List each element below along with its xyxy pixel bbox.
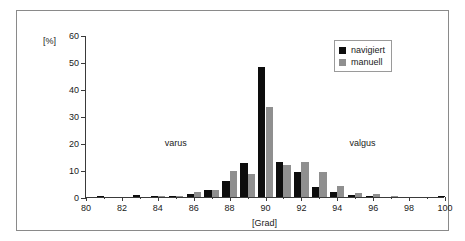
bar-navigiert-94: [330, 192, 337, 197]
x-tick-100: [445, 197, 446, 201]
legend-label-navigiert: navigiert: [351, 45, 385, 55]
bar-manuell-85: [176, 196, 183, 197]
bar-manuell-89: [248, 174, 255, 197]
x-tick-label-88: 88: [225, 203, 235, 213]
annotation-varus: varus: [165, 138, 187, 148]
y-axis-title: [%]: [43, 36, 56, 46]
bar-navigiert-87: [204, 190, 211, 197]
y-tick-50: [81, 63, 86, 64]
bar-navigiert-85: [169, 196, 176, 197]
x-tick-97: [391, 197, 392, 199]
y-tick-30: [81, 117, 86, 118]
x-tick-label-100: 100: [437, 203, 452, 213]
y-tick-40: [81, 90, 86, 91]
bar-navigiert-90: [258, 67, 265, 197]
bar-manuell-84: [158, 196, 165, 197]
bar-navigiert-89: [240, 163, 247, 197]
bar-navigiert-100: [438, 196, 445, 197]
bar-navigiert-86: [187, 194, 194, 197]
bar-manuell-97: [391, 196, 398, 197]
x-tick-label-86: 86: [189, 203, 199, 213]
x-tick-80: [86, 197, 87, 201]
x-tick-81: [104, 197, 105, 199]
bar-navigiert-84: [151, 196, 158, 197]
bar-navigiert-96: [366, 196, 373, 197]
x-tick-86: [194, 197, 195, 201]
x-tick-label-92: 92: [296, 203, 306, 213]
bar-manuell-94: [337, 186, 344, 197]
chart-legend: navigiert manuell: [334, 40, 392, 72]
y-tick-label-20: 20: [69, 139, 79, 149]
y-tick-label-60: 60: [69, 31, 79, 41]
x-tick-82: [122, 197, 123, 201]
bar-navigiert-88: [222, 181, 229, 197]
bar-navigiert-83: [133, 195, 140, 197]
x-tick-90: [266, 197, 267, 201]
x-tick-94: [337, 197, 338, 201]
x-tick-98: [409, 197, 410, 201]
x-tick-85: [176, 197, 177, 199]
legend-item-navigiert: navigiert: [339, 44, 385, 56]
y-tick-60: [81, 36, 86, 37]
x-tick-88: [230, 197, 231, 201]
bar-navigiert-95: [348, 195, 355, 197]
y-tick-label-50: 50: [69, 58, 79, 68]
bar-manuell-90: [266, 107, 273, 197]
y-tick-label-0: 0: [74, 193, 79, 203]
bar-manuell-88: [230, 171, 237, 197]
x-tick-91: [283, 197, 284, 199]
x-tick-89: [248, 197, 249, 199]
bar-manuell-95: [355, 193, 362, 197]
bar-navigiert-93: [312, 187, 319, 197]
y-tick-10: [81, 171, 86, 172]
x-tick-84: [158, 197, 159, 201]
x-tick-83: [140, 197, 141, 199]
x-tick-87: [212, 197, 213, 199]
y-tick-label-40: 40: [69, 85, 79, 95]
y-tick-label-30: 30: [69, 112, 79, 122]
legend-label-manuell: manuell: [351, 57, 383, 67]
figure-root: [%] 0102030405060 8082848688909294969810…: [0, 0, 465, 241]
bar-manuell-87: [212, 190, 219, 197]
bar-manuell-93: [319, 172, 326, 197]
x-tick-93: [319, 197, 320, 199]
x-tick-label-90: 90: [260, 203, 270, 213]
x-axis-title: [Grad]: [85, 218, 444, 228]
x-tick-label-80: 80: [81, 203, 91, 213]
legend-swatch-manuell: [339, 59, 346, 66]
x-tick-label-98: 98: [404, 203, 414, 213]
bar-navigiert-91: [276, 162, 283, 197]
legend-item-manuell: manuell: [339, 56, 385, 68]
x-tick-96: [373, 197, 374, 201]
bar-manuell-96: [373, 194, 380, 197]
bar-manuell-92: [301, 162, 308, 197]
x-tick-99: [427, 197, 428, 199]
legend-swatch-navigiert: [339, 47, 346, 54]
x-tick-95: [355, 197, 356, 199]
bar-manuell-91: [283, 165, 290, 197]
annotation-valgus: valgus: [349, 138, 375, 148]
y-tick-label-10: 10: [69, 166, 79, 176]
bar-manuell-86: [194, 192, 201, 197]
x-tick-label-96: 96: [368, 203, 378, 213]
x-tick-label-94: 94: [332, 203, 342, 213]
bar-navigiert-81: [97, 196, 104, 197]
x-tick-92: [301, 197, 302, 201]
bar-navigiert-92: [294, 172, 301, 197]
x-tick-label-82: 82: [117, 203, 127, 213]
figure-outer-frame: [%] 0102030405060 8082848688909294969810…: [16, 10, 449, 231]
y-tick-20: [81, 144, 86, 145]
x-tick-label-84: 84: [153, 203, 163, 213]
